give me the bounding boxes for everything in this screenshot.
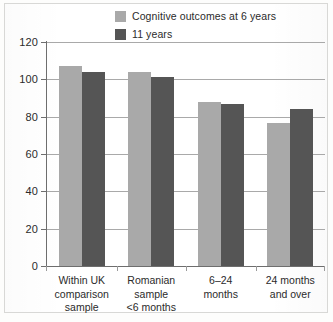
- bar-c1-s0: [128, 72, 151, 266]
- category-label-0: Within UKcomparisonsample: [47, 274, 117, 315]
- y-tick-label-40: 40: [26, 185, 38, 197]
- legend-label-series-0: Cognitive outcomes at 6 years: [132, 10, 276, 22]
- y-tick-40: [41, 191, 47, 192]
- category-separator-edge-0: [46, 266, 47, 271]
- legend-label-series-1: 11 years: [132, 28, 172, 40]
- y-tick-60: [41, 154, 47, 155]
- y-tick-label-120: 120: [19, 36, 38, 48]
- category-label-2: 6–24months: [186, 274, 256, 301]
- category-separator-3: [256, 266, 257, 271]
- legend-swatch-icon-series-1: [115, 29, 126, 40]
- y-tick-100: [41, 79, 47, 80]
- category-label-line: sample: [47, 301, 117, 315]
- legend-swatch-icon-series-0: [115, 11, 126, 22]
- category-label-line: <6 months: [117, 301, 187, 315]
- bar-c2-s1: [221, 104, 244, 266]
- chart-page: 020406080100120 Within UKcomparisonsampl…: [0, 0, 333, 322]
- category-label-line: Within UK: [47, 274, 117, 288]
- category-label-line: and over: [256, 288, 326, 302]
- chart-legend: Cognitive outcomes at 6 years 11 years: [115, 8, 276, 44]
- legend-item-series-0: Cognitive outcomes at 6 years: [115, 8, 276, 24]
- chart-frame: 020406080100120 Within UKcomparisonsampl…: [4, 3, 328, 313]
- bar-c1-s1: [151, 77, 174, 266]
- plot-area: 020406080100120 Within UKcomparisonsampl…: [47, 42, 325, 266]
- category-separator-1: [117, 266, 118, 271]
- category-label-line: months: [186, 288, 256, 302]
- y-tick-120: [41, 42, 47, 43]
- bar-c0-s1: [82, 72, 105, 266]
- bar-c3-s1: [290, 109, 313, 266]
- y-tick-label-20: 20: [26, 223, 38, 235]
- category-label-line: sample: [117, 288, 187, 302]
- category-label-1: Romaniansample<6 months: [117, 274, 187, 315]
- category-label-line: comparison: [47, 288, 117, 302]
- category-label-line: Romanian: [117, 274, 187, 288]
- category-separator-edge-3: [324, 266, 325, 271]
- y-tick-80: [41, 117, 47, 118]
- y-tick-20: [41, 229, 47, 230]
- y-tick-label-0: 0: [32, 260, 38, 272]
- y-tick-label-60: 60: [26, 148, 38, 160]
- bar-c0-s0: [59, 66, 82, 266]
- category-label-line: 6–24: [186, 274, 256, 288]
- legend-item-series-1: 11 years: [115, 26, 276, 42]
- category-label-3: 24 monthsand over: [256, 274, 326, 301]
- category-separator-2: [186, 266, 187, 271]
- bar-c2-s0: [198, 102, 221, 266]
- category-label-line: 24 months: [256, 274, 326, 288]
- y-tick-label-80: 80: [26, 111, 38, 123]
- y-tick-label-100: 100: [19, 73, 38, 85]
- bar-c3-s0: [267, 123, 290, 266]
